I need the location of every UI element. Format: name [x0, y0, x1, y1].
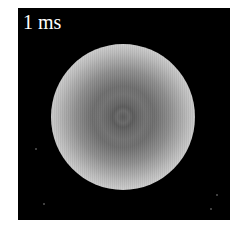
circular-disc — [51, 44, 195, 190]
speck — [216, 194, 218, 196]
time-label: 1 ms — [23, 10, 61, 34]
speck — [210, 208, 212, 210]
speck — [43, 203, 45, 205]
image-frame: 1 ms — [18, 8, 230, 220]
speck — [35, 148, 37, 150]
